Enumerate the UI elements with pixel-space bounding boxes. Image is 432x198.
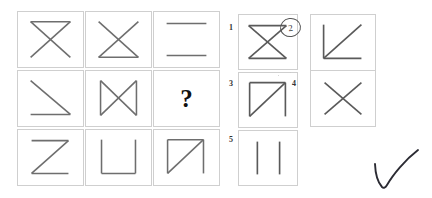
matrix-cell-row2-col2[interactable] xyxy=(85,70,152,127)
l-shape-with-diagonal-icon xyxy=(311,15,375,70)
u-shape-icon xyxy=(86,130,151,185)
option-cell-3[interactable] xyxy=(238,72,298,128)
hand-drawn-check-mark-icon xyxy=(370,148,422,194)
matrix-cell-row3-col3[interactable] xyxy=(153,129,220,186)
option-number-1: 1 xyxy=(229,24,233,32)
n-shape-with-diagonal-icon xyxy=(154,130,219,185)
matrix-cell-row1-col3[interactable] xyxy=(153,11,220,68)
matrix-cell-row3-col1[interactable] xyxy=(17,129,84,186)
question-mark-label: ? xyxy=(154,71,219,126)
diagonal-with-bottom-line-icon xyxy=(18,71,83,126)
two-horizontal-lines-icon xyxy=(154,12,219,67)
option-number-3: 3 xyxy=(229,80,233,88)
matrix-cell-row2-col1[interactable] xyxy=(17,70,84,127)
x-with-top-line-icon xyxy=(18,12,83,67)
scan-speck xyxy=(290,72,291,73)
z-shape-icon xyxy=(18,130,83,185)
option-cell-4[interactable] xyxy=(310,70,376,127)
x-with-bottom-line-icon xyxy=(86,12,151,67)
option-number-4: 4 xyxy=(292,80,296,88)
scan-speck xyxy=(278,75,279,76)
matrix-cell-row1-col2[interactable] xyxy=(85,11,152,68)
option-cell-5[interactable] xyxy=(238,130,298,186)
matrix-grid: ? xyxy=(17,11,220,187)
two-vertical-lines-icon xyxy=(239,131,297,185)
option-number-5: 5 xyxy=(229,136,233,144)
matrix-cell-row3-col2[interactable] xyxy=(85,129,152,186)
option-number-2: 2 xyxy=(288,22,294,33)
bowtie-x-with-verticals-icon xyxy=(86,71,151,126)
option-cell-2[interactable] xyxy=(310,14,376,71)
matrix-cell-row1-col1[interactable] xyxy=(17,11,84,68)
plain-x-icon xyxy=(311,71,375,126)
n-shape-with-diagonal-icon xyxy=(239,73,297,127)
matrix-cell-row2-col3[interactable]: ? xyxy=(153,70,220,127)
